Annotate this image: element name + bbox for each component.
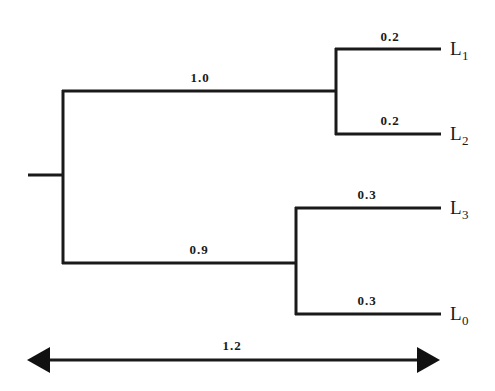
svg-text:3: 3 <box>462 207 469 222</box>
svg-text:L: L <box>450 197 462 218</box>
tree-svg: 1.0 0.2 L 1 0.2 L 2 0.9 0.3 L 3 0.3 L <box>0 0 495 391</box>
branch-length-label-L0: 0.3 <box>357 293 376 308</box>
branch-length-label-A: 1.0 <box>190 70 209 85</box>
branch-length-label-L3: 0.3 <box>357 187 376 202</box>
branch-length-label-B: 0.9 <box>189 242 208 257</box>
branch-length-label-L1: 0.2 <box>380 29 399 44</box>
leaf-label-L2: L 2 <box>450 123 469 148</box>
branch-length-label-L2: 0.2 <box>380 113 399 128</box>
svg-text:L: L <box>450 123 462 144</box>
leaf-label-L1: L 1 <box>450 38 469 63</box>
svg-text:L: L <box>450 303 462 324</box>
svg-text:2: 2 <box>462 133 469 148</box>
scale-bar: 1.2 <box>27 338 440 373</box>
arrow-right-icon <box>417 347 440 373</box>
svg-text:0: 0 <box>462 313 469 328</box>
svg-text:1: 1 <box>462 48 469 63</box>
svg-text:L: L <box>450 38 462 59</box>
leaf-label-L0: L 0 <box>450 303 469 328</box>
scale-bar-label: 1.2 <box>222 338 241 353</box>
leaf-label-L3: L 3 <box>450 197 469 222</box>
arrow-left-icon <box>27 347 50 373</box>
phylogenetic-tree-diagram: 1.0 0.2 L 1 0.2 L 2 0.9 0.3 L 3 0.3 L <box>0 0 495 391</box>
